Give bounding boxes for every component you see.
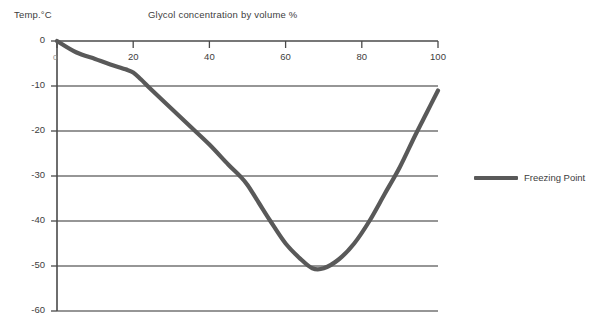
origin-tick-label: 0	[53, 53, 57, 62]
y-axis-ticks	[51, 41, 57, 311]
freezing-point-chart: Temp.°C Glycol concentration by volume %…	[0, 0, 611, 329]
legend-swatch-freezing-point	[474, 176, 518, 180]
x-tick-label: 60	[266, 51, 306, 62]
y-axis-title: Temp.°C	[14, 9, 52, 20]
y-tick-label: -60	[5, 304, 45, 315]
y-tick-label: -20	[5, 124, 45, 135]
chart-legend: Freezing Point	[474, 172, 585, 183]
x-tick-label: 20	[113, 51, 153, 62]
x-tick-label: 80	[342, 51, 382, 62]
y-tick-label: -50	[5, 259, 45, 270]
x-axis-ticks	[57, 41, 438, 48]
chart-title: Glycol concentration by volume %	[148, 9, 298, 20]
freezing-point-line	[57, 41, 438, 269]
legend-label-freezing-point: Freezing Point	[524, 172, 585, 183]
y-tick-label: -10	[5, 79, 45, 90]
y-tick-label: -40	[5, 214, 45, 225]
x-tick-label: 100	[418, 51, 458, 62]
y-tick-label: 0	[5, 34, 45, 45]
y-tick-label: -30	[5, 169, 45, 180]
plot-area	[0, 0, 611, 329]
x-tick-label: 40	[189, 51, 229, 62]
